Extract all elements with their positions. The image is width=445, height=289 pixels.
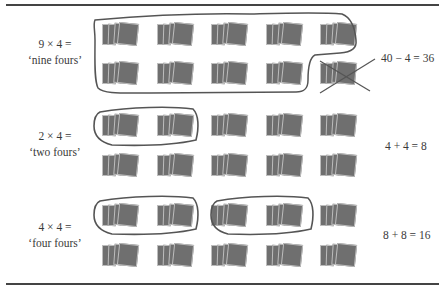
card bbox=[281, 61, 303, 85]
expression: 2 × 4 = bbox=[15, 128, 95, 144]
card bbox=[172, 22, 194, 46]
card-group bbox=[102, 61, 140, 87]
top-rule bbox=[6, 4, 439, 6]
card-group bbox=[211, 243, 249, 269]
card bbox=[172, 61, 194, 85]
equation-two-fours: 4 + 4 = 8 bbox=[385, 140, 427, 152]
card bbox=[226, 61, 248, 85]
card-group bbox=[157, 243, 195, 269]
card bbox=[335, 61, 357, 85]
card bbox=[117, 203, 139, 227]
card-group bbox=[320, 61, 358, 87]
card bbox=[335, 113, 357, 137]
card-group bbox=[102, 243, 140, 269]
card-group bbox=[157, 153, 195, 179]
card-group bbox=[157, 61, 195, 87]
phrase: ‘two fours’ bbox=[15, 144, 95, 160]
card-group bbox=[266, 113, 304, 139]
card-group bbox=[266, 203, 304, 229]
card bbox=[335, 243, 357, 267]
section-label-four-fours: 4 × 4 = ‘four fours’ bbox=[15, 219, 95, 251]
card bbox=[226, 153, 248, 177]
card-group bbox=[211, 153, 249, 179]
card bbox=[172, 153, 194, 177]
card-group bbox=[211, 203, 249, 229]
card-group bbox=[211, 61, 249, 87]
card-group bbox=[102, 22, 140, 48]
equation-nine-fours: 40 − 4 = 36 bbox=[381, 52, 434, 64]
card bbox=[172, 113, 194, 137]
card bbox=[281, 153, 303, 177]
card-group bbox=[266, 61, 304, 87]
card bbox=[117, 61, 139, 85]
card-group bbox=[102, 153, 140, 179]
card-group bbox=[320, 203, 358, 229]
card-group bbox=[320, 113, 358, 139]
card bbox=[335, 203, 357, 227]
card bbox=[117, 22, 139, 46]
card bbox=[172, 203, 194, 227]
equation-four-fours: 8 + 8 = 16 bbox=[383, 229, 430, 241]
card-group bbox=[320, 22, 358, 48]
card bbox=[335, 153, 357, 177]
card-group bbox=[157, 113, 195, 139]
expression: 9 × 4 = bbox=[15, 36, 95, 52]
expression: 4 × 4 = bbox=[15, 219, 95, 235]
card bbox=[226, 203, 248, 227]
card bbox=[226, 113, 248, 137]
card-group bbox=[102, 113, 140, 139]
card-group bbox=[102, 203, 140, 229]
section-label-two-fours: 2 × 4 = ‘two fours’ bbox=[15, 128, 95, 160]
card bbox=[226, 243, 248, 267]
card-group bbox=[320, 153, 358, 179]
card bbox=[226, 22, 248, 46]
section-label-nine-fours: 9 × 4 = ‘nine fours’ bbox=[15, 36, 95, 68]
card bbox=[281, 113, 303, 137]
card-group bbox=[211, 113, 249, 139]
card-group bbox=[266, 22, 304, 48]
card bbox=[335, 22, 357, 46]
card bbox=[117, 113, 139, 137]
card-group bbox=[266, 243, 304, 269]
card bbox=[281, 203, 303, 227]
card-group bbox=[157, 203, 195, 229]
card bbox=[281, 22, 303, 46]
bottom-rule bbox=[6, 283, 439, 285]
card-group bbox=[320, 243, 358, 269]
card bbox=[117, 243, 139, 267]
phrase: ‘nine fours’ bbox=[15, 52, 95, 68]
card bbox=[281, 243, 303, 267]
card-group bbox=[211, 22, 249, 48]
card-group bbox=[266, 153, 304, 179]
phrase: ‘four fours’ bbox=[15, 235, 95, 251]
card-group bbox=[157, 22, 195, 48]
card bbox=[117, 153, 139, 177]
card bbox=[172, 243, 194, 267]
